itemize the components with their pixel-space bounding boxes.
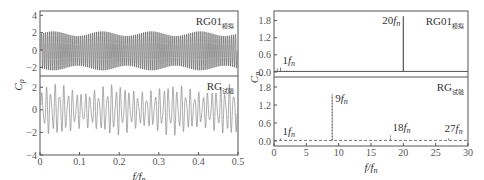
- tick-label: 0.4: [192, 156, 205, 167]
- peak-label: 18fn: [392, 121, 410, 135]
- tick-label: 0: [32, 45, 37, 56]
- peak-label: 9fn: [335, 92, 348, 106]
- peak-label: 1fn: [282, 54, 295, 68]
- tick-label: 0.3: [153, 156, 166, 167]
- tick-label: 30: [463, 147, 473, 158]
- tick-label: −4: [26, 150, 37, 161]
- tick-label: 1.8: [259, 82, 272, 93]
- plot-frame: [274, 11, 468, 146]
- tick-label: 15: [366, 147, 376, 158]
- tick-label: 1.8: [259, 15, 272, 26]
- series-label: RG01模拟: [196, 15, 234, 30]
- tick-label: 0.2: [113, 156, 126, 167]
- tick-label: 20: [398, 147, 408, 158]
- tick-label: 0: [272, 147, 277, 158]
- tick-label: 0.6: [259, 49, 272, 60]
- trace-rg01-simulation: [41, 31, 237, 70]
- tick-label: 0.5: [232, 156, 245, 167]
- tick-label: 0.0: [259, 136, 272, 147]
- peak-label: 20fn: [382, 14, 400, 28]
- tick-label: 10: [334, 147, 344, 158]
- tick-label: −2: [26, 62, 37, 73]
- peak-label: 27fn: [445, 122, 463, 136]
- chart-canvas: 420−2RG01模拟20−2−4RG试验00.10.20.30.40.5f/f…: [0, 0, 484, 180]
- tick-label: 5: [304, 147, 309, 158]
- series-label: RG试验: [437, 81, 464, 96]
- tick-label: 2: [32, 27, 37, 38]
- tick-label: 1.2: [259, 100, 272, 111]
- x-axis-label: f/fn: [132, 170, 145, 180]
- tick-label: 0.6: [259, 118, 272, 129]
- left-panel-time-series: 420−2RG01模拟20−2−4RG试验00.10.20.30.40.5f/f…: [12, 10, 244, 180]
- y-axis-label: Cp: [248, 72, 262, 83]
- tick-label: 0: [32, 104, 37, 115]
- tick-label: −2: [26, 127, 37, 138]
- peak-label: 1fn: [282, 125, 295, 139]
- tick-label: 4: [32, 10, 37, 21]
- x-axis-label: f/fn: [364, 161, 377, 175]
- tick-label: 1.2: [259, 32, 272, 43]
- right-panel-spectrum: 1.81.20.60.01fn20fnRG01模拟1.81.20.60.01fn…: [248, 11, 473, 175]
- tick-label: 25: [431, 147, 441, 158]
- tick-label: 0.1: [73, 156, 86, 167]
- series-label: RG01模拟: [426, 15, 464, 30]
- tick-label: 2: [32, 82, 37, 93]
- y-axis-label: Cp: [12, 79, 26, 90]
- tick-label: 0: [38, 156, 43, 167]
